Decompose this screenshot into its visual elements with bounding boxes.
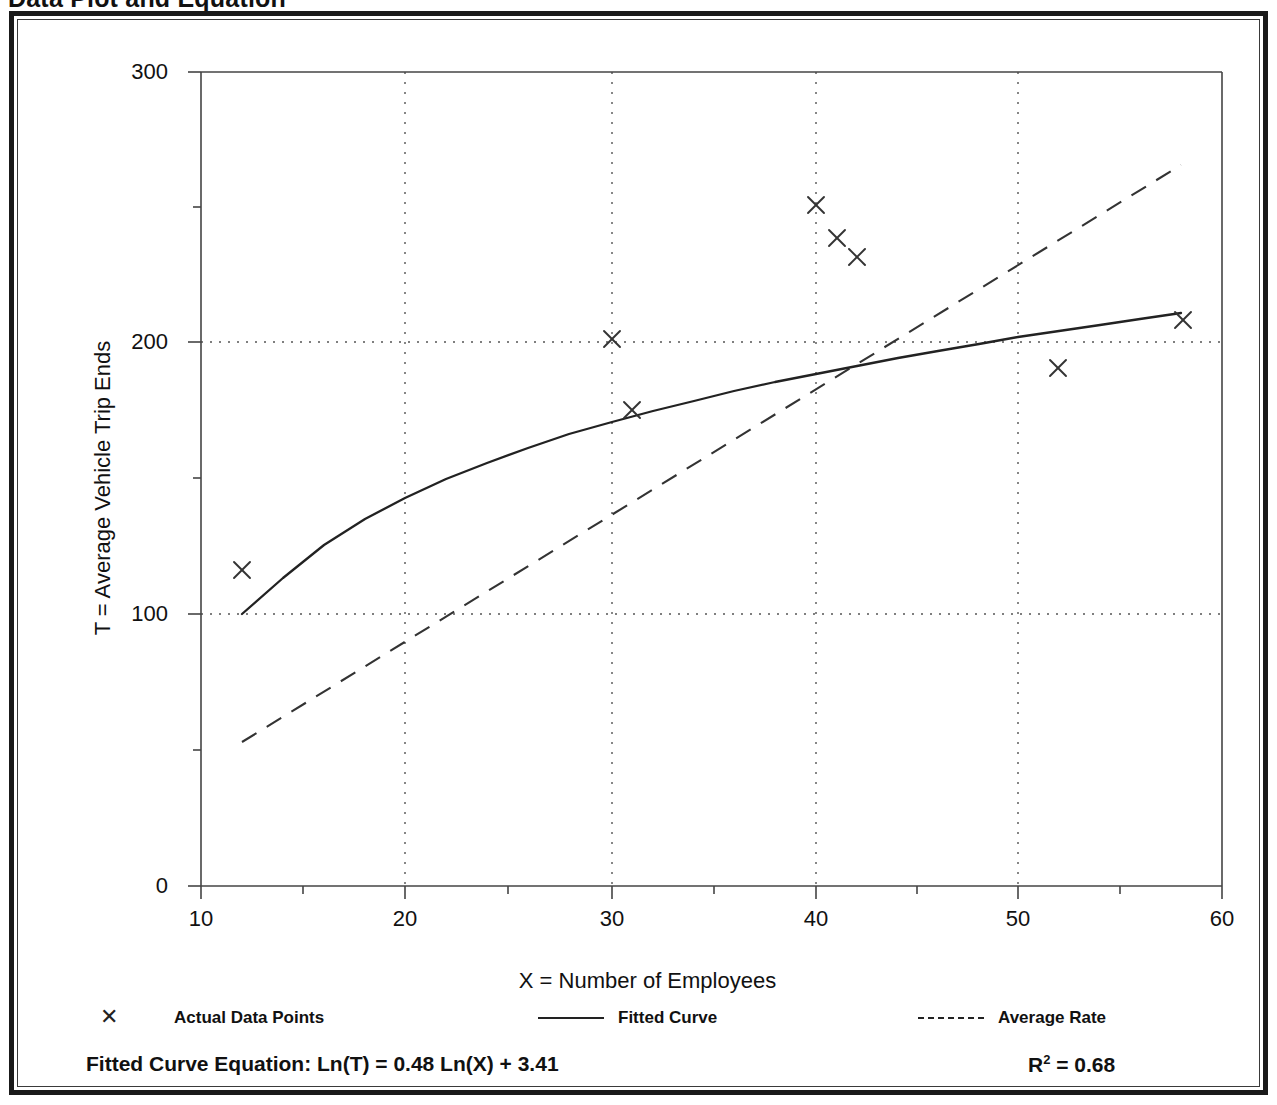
data-point-marker (1050, 360, 1066, 376)
x-tick-label-20: 20 (370, 906, 440, 932)
data-point-marker (829, 230, 845, 246)
r-squared-symbol: R (1028, 1053, 1043, 1076)
r-squared-annotation: R2 = 0.68 (1028, 1052, 1115, 1077)
x-marker-icon: ✕ (94, 1008, 160, 1028)
figure-frame: 300 200 100 0 10 20 30 40 50 60 T = Aver… (9, 11, 1268, 1095)
figure-inner-border: 300 200 100 0 10 20 30 40 50 60 T = Aver… (17, 19, 1260, 1087)
chart-plot-area (18, 20, 1267, 1094)
horizontal-gridlines (201, 342, 1222, 614)
axis-spines (201, 72, 1222, 886)
x-tick-label-60: 60 (1187, 906, 1257, 932)
series-actual-data-points (234, 197, 1191, 578)
x-tick-label-50: 50 (983, 906, 1053, 932)
legend-label-actual-data-points: Actual Data Points (174, 1008, 324, 1028)
data-point-marker (808, 197, 824, 213)
legend-item-fitted-curve[interactable]: Fitted Curve (538, 1008, 717, 1028)
series-fitted-curve-line (242, 313, 1181, 614)
legend-label-fitted-curve: Fitted Curve (618, 1008, 717, 1028)
y-tick-label-0: 0 (98, 873, 168, 899)
x-axis-ticks (201, 886, 1222, 899)
y-axis-ticks (188, 72, 201, 886)
equation-row: Fitted Curve Equation: Ln(T) = 0.48 Ln(X… (18, 1052, 1277, 1092)
vertical-gridlines (405, 72, 1018, 885)
solid-line-icon (538, 1008, 604, 1028)
x-tick-label-30: 30 (577, 906, 647, 932)
series-average-rate-line (242, 165, 1181, 742)
legend-item-actual-data-points[interactable]: ✕ Actual Data Points (94, 1008, 324, 1028)
x-tick-label-10: 10 (166, 906, 236, 932)
y-axis-title: T = Average Vehicle Trip Ends (90, 323, 116, 653)
r-squared-exponent: 2 (1043, 1052, 1050, 1067)
fitted-curve-equation: Fitted Curve Equation: Ln(T) = 0.48 Ln(X… (86, 1052, 559, 1076)
x-axis-title: X = Number of Employees (18, 968, 1277, 994)
legend-label-average-rate: Average Rate (998, 1008, 1106, 1028)
data-point-marker (1175, 312, 1191, 328)
dashed-line-icon (918, 1008, 984, 1028)
legend-item-average-rate[interactable]: Average Rate (918, 1008, 1106, 1028)
y-tick-label-300: 300 (98, 59, 168, 85)
data-point-marker (234, 562, 250, 578)
chart-legend: ✕ Actual Data Points Fitted Curve Averag… (18, 1008, 1277, 1048)
r-squared-value: = 0.68 (1056, 1053, 1115, 1076)
figure-page: Data Plot and Equation (0, 0, 1277, 1105)
x-tick-label-40: 40 (781, 906, 851, 932)
data-point-marker (849, 249, 865, 265)
